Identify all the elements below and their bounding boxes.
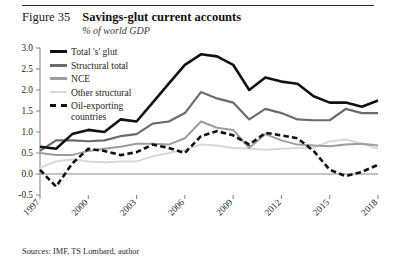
legend-swatch-oil-icon bbox=[50, 99, 67, 112]
figure-header: Figure 35 Savings-glut current accounts … bbox=[22, 10, 374, 37]
figure-number: Figure 35 bbox=[22, 10, 82, 25]
legend-item-nce: NCE bbox=[50, 72, 180, 86]
y-axis-tick-label: 1.5 bbox=[21, 106, 33, 116]
chart-legend: Total 's' glut Structural total NCE Othe… bbox=[50, 45, 180, 124]
legend-label-nce: NCE bbox=[71, 72, 90, 84]
legend-label-oil: Oil-exporting countries bbox=[71, 99, 123, 122]
figure-subtitle: % of world GDP bbox=[82, 25, 241, 37]
y-axis-tick-label: 2.5 bbox=[21, 64, 33, 74]
y-axis-tick-label: 3.0 bbox=[21, 43, 33, 53]
y-axis-tick-label: -0.5 bbox=[18, 190, 33, 200]
page-title: Savings-glut current accounts bbox=[82, 10, 241, 25]
legend-item-other: Other structural bbox=[50, 86, 180, 100]
x-axis-tick-label: 2009 bbox=[214, 197, 234, 217]
legend-item-total: Total 's' glut bbox=[50, 45, 180, 59]
y-axis-tick-label: 1.0 bbox=[21, 127, 33, 137]
x-axis-tick-label: 2015 bbox=[311, 197, 331, 217]
x-axis-tick-label: 2018 bbox=[359, 197, 379, 217]
x-axis-tick-label: 2003 bbox=[118, 197, 138, 217]
legend-item-structural: Structural total bbox=[50, 59, 180, 73]
legend-label-structural: Structural total bbox=[71, 59, 128, 71]
x-axis-tick-label: 2006 bbox=[166, 197, 186, 217]
header-rule bbox=[22, 5, 374, 6]
series-line-oil bbox=[40, 131, 378, 186]
source-note: Sources: IMF, TS Lombard, author bbox=[22, 247, 139, 257]
legend-swatch-total-icon bbox=[50, 45, 67, 58]
legend-swatch-nce-icon bbox=[50, 72, 67, 85]
y-axis-tick-label: 0.5 bbox=[21, 148, 33, 158]
y-axis-tick-label: 2.0 bbox=[21, 85, 33, 95]
title-block: Savings-glut current accounts % of world… bbox=[82, 10, 241, 37]
legend-label-other: Other structural bbox=[71, 86, 131, 98]
x-axis-tick-label: 2000 bbox=[69, 197, 89, 217]
x-axis-tick-label: 2012 bbox=[263, 197, 283, 217]
series-line-nce bbox=[40, 122, 378, 156]
legend-swatch-structural-icon bbox=[50, 59, 67, 72]
y-axis-tick-label: 0.0 bbox=[21, 169, 33, 179]
legend-label-total: Total 's' glut bbox=[71, 45, 118, 57]
series-line-other bbox=[40, 140, 378, 168]
figure-container: Figure 35 Savings-glut current accounts … bbox=[0, 0, 395, 267]
legend-item-oil: Oil-exporting countries bbox=[50, 99, 180, 124]
legend-swatch-other-icon bbox=[50, 86, 67, 99]
